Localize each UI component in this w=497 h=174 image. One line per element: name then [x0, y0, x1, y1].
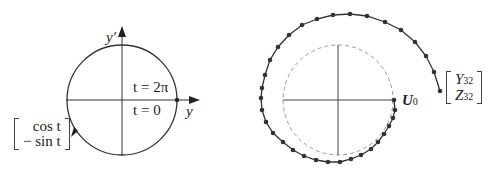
spiral-point: [424, 54, 429, 59]
spiral-point: [382, 132, 387, 137]
right-figure: [259, 12, 443, 165]
y32-z32-vector: Y32 Z32: [446, 72, 482, 103]
arrow-up-icon: [118, 26, 126, 37]
spiral-point: [276, 45, 281, 50]
spiral-point: [338, 160, 343, 165]
start-point: [175, 98, 179, 102]
spiral-point: [387, 124, 392, 129]
spiral-point: [365, 14, 370, 19]
spiral-point: [264, 120, 269, 125]
spiral-point: [399, 28, 404, 33]
spiral-point: [349, 157, 354, 162]
diagram-canvas: [0, 0, 497, 174]
spiral-point: [302, 154, 307, 159]
spiral-point: [383, 20, 388, 25]
vector-top: cos t: [33, 119, 61, 134]
spiral-point: [260, 108, 265, 113]
spiral-point: [413, 40, 418, 45]
spiral-points: [259, 12, 443, 165]
spiral-point: [393, 108, 398, 113]
spiral-point: [432, 70, 437, 75]
right-bracket: [477, 71, 482, 104]
z32-entry: Z32: [455, 88, 473, 103]
spiral-point: [259, 96, 264, 101]
spiral-point: [268, 58, 273, 63]
spiral-point: [260, 86, 265, 91]
y-label: y: [186, 104, 193, 119]
u-subscript: 0: [413, 96, 418, 107]
spiral-point: [263, 73, 268, 78]
spiral-point: [281, 140, 286, 145]
spiral-point: [315, 17, 320, 22]
spiral-point: [392, 98, 397, 103]
t-2pi-label: t = 2π: [133, 80, 168, 95]
vector-bottom: − sin t: [23, 134, 61, 149]
y32-entry: Y32: [455, 72, 473, 87]
spiral-point: [326, 160, 331, 165]
t-0-label: t = 0: [133, 103, 161, 118]
u0-label: U0: [402, 93, 418, 108]
spiral-point: [359, 153, 364, 158]
spiral-point: [271, 131, 276, 136]
spiral-point: [314, 158, 319, 163]
spiral-point: [438, 89, 443, 94]
spiral-point: [287, 33, 292, 38]
spiral-point: [376, 140, 381, 145]
y-prime-label: y′: [106, 30, 116, 45]
spiral-point: [300, 23, 305, 28]
spiral-point: [369, 147, 374, 152]
cos-sin-vector: cos t − sin t: [14, 119, 70, 149]
spiral-point: [391, 116, 396, 121]
u-symbol: U: [402, 92, 413, 108]
spiral-point: [348, 12, 353, 17]
right-bracket: [65, 118, 70, 150]
spiral-point: [291, 148, 296, 153]
spiral-point: [331, 13, 336, 18]
